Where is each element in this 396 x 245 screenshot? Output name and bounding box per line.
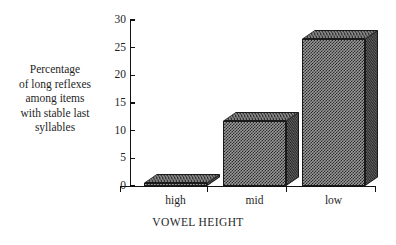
y-tick-mark <box>130 158 135 159</box>
bar-chart-figure: Percentage of long reflexes among items … <box>0 0 396 245</box>
y-tick-mark <box>130 19 135 20</box>
bar-low <box>302 30 378 186</box>
x-axis-title: VOWEL HEIGHT <box>0 216 396 228</box>
bar-side-face <box>365 30 378 186</box>
y-tick-mark <box>130 75 135 76</box>
x-tick-label-mid: mid <box>211 194 298 207</box>
x-tick-label-low: low <box>290 194 377 207</box>
y-tick-label: 5 <box>120 153 126 165</box>
bar-mid <box>223 112 299 186</box>
x-tick-label-high: high <box>132 194 219 207</box>
y-tick-mark <box>130 102 135 103</box>
y-tick-label: 15 <box>115 97 127 109</box>
y-tick-mark <box>130 47 135 48</box>
x-axis-line <box>120 186 376 187</box>
y-tick-label: 25 <box>115 42 127 54</box>
bar-side-face <box>286 112 299 186</box>
y-tick-label: 10 <box>115 125 127 137</box>
plot-area: 302520151050 highmidlow <box>130 20 376 187</box>
bar-front-face <box>302 39 365 186</box>
y-tick-mark <box>130 130 135 131</box>
y-tick-mark <box>130 185 135 186</box>
y-axis-title: Percentage of long reflexes among items … <box>6 62 104 135</box>
x-tick-mark <box>286 186 287 192</box>
bar-front-face <box>144 183 207 186</box>
bar-high <box>144 174 220 186</box>
x-tick-mark <box>375 186 376 192</box>
bar-front-face <box>223 121 286 186</box>
y-tick-label: 30 <box>115 14 127 26</box>
x-tick-mark <box>207 186 208 192</box>
y-tick-label: 20 <box>115 70 127 82</box>
x-tick-mark <box>120 186 121 192</box>
